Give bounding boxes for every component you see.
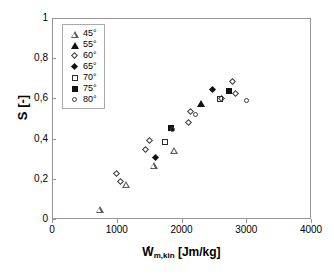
- marker-diamond-open-icon: [185, 119, 192, 126]
- legend-label: 45°: [82, 28, 97, 39]
- x-axis-label: Wm,kin [Jm/kg]: [52, 245, 311, 260]
- x-tick-mark: [52, 219, 53, 223]
- marker-diamond-open-icon: [146, 137, 153, 144]
- x-tick-label: 4000: [289, 224, 333, 235]
- marker-triangle-open-icon: [150, 162, 158, 169]
- x-tick-label: 2000: [160, 224, 204, 235]
- x-tick-mark: [311, 219, 312, 223]
- legend-label: 60°: [82, 50, 97, 61]
- legend-item-60deg[interactable]: 60°: [68, 50, 97, 61]
- marker-diamond-open-icon: [142, 146, 149, 153]
- marker-triangle-open-icon: [96, 206, 104, 213]
- x-tick-label: 0: [30, 224, 74, 235]
- legend-marker: [68, 39, 82, 50]
- chart-figure: 00,20,40,60,81 S [-] Wm,kin [Jm/kg] 45°5…: [0, 0, 334, 275]
- y-tick-mark: [52, 58, 56, 59]
- x-tick-label: 3000: [224, 224, 268, 235]
- legend-marker: [68, 28, 82, 39]
- y-tick-mark: [52, 139, 56, 140]
- marker-square-filled-icon: [226, 88, 232, 94]
- x-tick-mark: [117, 219, 118, 223]
- legend-label: 70°: [82, 72, 97, 83]
- y-axis-label: S [-]: [15, 78, 30, 138]
- y-tick-mark: [52, 18, 56, 19]
- y-tick-mark: [52, 179, 56, 180]
- legend: 45°55°60°65°70°75°80°: [62, 24, 105, 109]
- marker-diamond-open-icon: [229, 78, 236, 85]
- legend-item-55deg[interactable]: 55°: [68, 39, 97, 50]
- y-tick-mark: [52, 98, 56, 99]
- x-tick-mark: [246, 219, 247, 223]
- marker-triangle-filled-icon: [197, 100, 205, 107]
- marker-circle-open-icon: [72, 97, 77, 102]
- x-axis-label-subscript: m,kin: [154, 251, 175, 260]
- legend-marker: [68, 94, 82, 105]
- marker-square-open-icon: [72, 75, 78, 81]
- marker-diamond-filled-icon: [152, 154, 159, 161]
- legend-item-65deg[interactable]: 65°: [68, 61, 97, 72]
- legend-label: 65°: [82, 61, 97, 72]
- marker-triangle-filled-icon: [71, 42, 79, 49]
- y-tick-label: 0,2: [8, 174, 48, 184]
- marker-circle-open-icon: [193, 112, 198, 117]
- marker-diamond-open-icon: [232, 90, 239, 97]
- marker-circle-open-icon: [244, 98, 249, 103]
- marker-diamond-open-icon: [71, 52, 78, 59]
- y-tick-label: 0: [8, 214, 48, 224]
- legend-marker: [68, 61, 82, 72]
- legend-item-70deg[interactable]: 70°: [68, 72, 97, 83]
- marker-square-open-icon: [162, 139, 168, 145]
- legend-label: 80°: [82, 94, 97, 105]
- marker-diamond-filled-icon: [71, 63, 78, 70]
- legend-label: 55°: [82, 39, 97, 50]
- legend-item-80deg[interactable]: 80°: [68, 94, 97, 105]
- legend-item-45deg[interactable]: 45°: [68, 28, 97, 39]
- marker-square-filled-icon: [72, 86, 78, 92]
- x-tick-label: 1000: [95, 224, 139, 235]
- marker-triangle-open-icon: [170, 147, 178, 154]
- x-axis-label-unit: [Jm/kg]: [178, 245, 221, 259]
- legend-label: 75°: [82, 83, 97, 94]
- marker-diamond-open-icon: [113, 170, 120, 177]
- legend-marker: [68, 83, 82, 94]
- y-tick-label: 1: [8, 13, 48, 23]
- marker-square-open-icon: [217, 96, 223, 102]
- x-tick-mark: [182, 219, 183, 223]
- marker-diamond-filled-icon: [209, 86, 216, 93]
- legend-item-75deg[interactable]: 75°: [68, 83, 97, 94]
- marker-triangle-open-icon: [71, 31, 79, 38]
- legend-marker: [68, 72, 82, 83]
- marker-circle-open-icon: [170, 127, 175, 132]
- y-tick-label: 0,8: [8, 53, 48, 63]
- legend-marker: [68, 50, 82, 61]
